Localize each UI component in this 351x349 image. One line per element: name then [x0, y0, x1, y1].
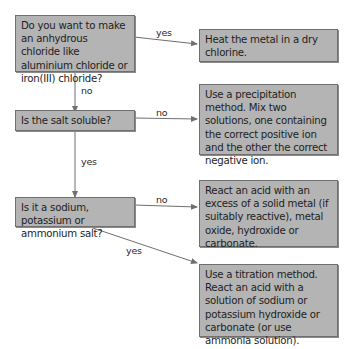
outcome-text: Heat the metal in a dry chlorine. [205, 34, 318, 58]
edge-q2-b [134, 118, 197, 119]
edge-label-no: no [156, 194, 167, 205]
outcome-titration: Use a titration method. React an acid wi… [199, 264, 338, 337]
question-salt-soluble: Is the salt soluble? [15, 110, 135, 131]
question-anhydrous-chloride: Do you want to make an anhydrous chlorid… [15, 15, 135, 72]
edge-label-yes: yes [126, 245, 142, 256]
question-sodium-potassium-ammonium: Is it a sodium, potassium or ammonium sa… [15, 197, 135, 227]
edge-q1-a [134, 37, 197, 44]
outcome-text: React an acid with an excess of a solid … [205, 185, 328, 249]
question-text: Is the salt soluble? [21, 115, 111, 126]
question-text: Is it a sodium, potassium or ammonium sa… [21, 202, 103, 239]
edge-label-no: no [81, 85, 92, 96]
edge-label-yes: yes [81, 156, 97, 167]
outcome-text: Use a precipitation method. Mix two solu… [205, 89, 327, 166]
edge-q3-c [134, 205, 197, 207]
edge-label-yes: yes [156, 27, 172, 38]
outcome-acid-excess-solid: React an acid with an excess of a solid … [199, 180, 338, 247]
outcome-precipitation: Use a precipitation method. Mix two solu… [199, 84, 338, 155]
outcome-text: Use a titration method. React an acid wi… [205, 269, 320, 346]
edge-label-no: no [156, 107, 167, 118]
outcome-heat-metal: Heat the metal in a dry chlorine. [199, 29, 338, 62]
